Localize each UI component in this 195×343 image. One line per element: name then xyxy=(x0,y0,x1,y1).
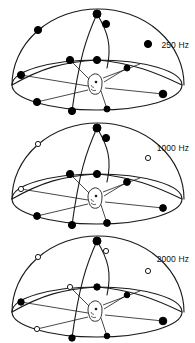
marker xyxy=(104,333,110,339)
marker xyxy=(145,155,150,160)
marker xyxy=(102,20,109,27)
spoke-to-148-42 xyxy=(103,64,140,78)
spoke-to-37-100 xyxy=(37,90,88,102)
marker xyxy=(93,56,100,63)
marker xyxy=(145,268,150,273)
marker xyxy=(159,90,167,98)
marker xyxy=(17,71,24,78)
hemisphere-diagram-250 xyxy=(0,2,195,116)
marker xyxy=(124,179,131,186)
marker xyxy=(18,299,24,305)
marker xyxy=(144,40,151,47)
marker xyxy=(34,26,41,33)
marker xyxy=(103,248,108,253)
marker xyxy=(93,237,101,245)
outer-dome-arc xyxy=(12,236,184,312)
marker xyxy=(104,220,111,227)
marker xyxy=(68,107,75,114)
marker xyxy=(66,56,73,63)
frequency-label-250: 250 Hz xyxy=(161,40,189,50)
marker xyxy=(94,284,100,290)
marker xyxy=(93,170,100,177)
head-profile-icon xyxy=(88,74,102,94)
marker xyxy=(124,65,130,71)
marker xyxy=(67,284,72,289)
spoke-to-148-42 xyxy=(103,291,140,305)
spoke-to-163-92 xyxy=(105,88,163,94)
marker xyxy=(124,292,130,298)
head-profile-icon xyxy=(88,188,102,208)
hemisphere-diagram-2000 xyxy=(0,229,195,343)
hemisphere-panel-2000: 2000 Hz xyxy=(0,229,195,343)
spoke-to-148-42 xyxy=(103,178,140,192)
spoke-to-163-92 xyxy=(105,315,163,321)
marker xyxy=(104,106,110,112)
marker xyxy=(34,213,41,220)
marker xyxy=(33,98,40,105)
marker xyxy=(93,10,101,18)
marker xyxy=(69,335,75,341)
spoke-to-37-100 xyxy=(37,204,88,216)
hemisphere-panel-1000: 1000 Hz xyxy=(0,116,195,230)
marker xyxy=(160,205,167,212)
frequency-label-1000: 1000 Hz xyxy=(157,143,189,153)
outer-dome-arc xyxy=(12,123,184,199)
frequency-label-2000: 2000 Hz xyxy=(157,254,189,264)
marker xyxy=(66,170,73,177)
spoke-to-37-100 xyxy=(37,317,88,329)
hemisphere-panel-250: 250 Hz xyxy=(0,2,195,116)
marker xyxy=(102,134,109,141)
spoke-to-163-92 xyxy=(105,202,163,208)
marker xyxy=(35,141,40,146)
marker xyxy=(35,254,40,259)
marker xyxy=(18,186,23,191)
hemisphere-array-figure: 250 Hz xyxy=(0,0,195,343)
marker xyxy=(34,326,39,331)
marker xyxy=(68,221,75,228)
marker xyxy=(159,317,167,325)
outer-dome-arc xyxy=(12,9,184,85)
marker xyxy=(93,124,101,132)
hemisphere-diagram-1000 xyxy=(0,116,195,230)
head-profile-icon xyxy=(88,301,102,321)
